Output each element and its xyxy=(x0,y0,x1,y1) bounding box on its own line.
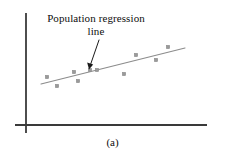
population-regression-line xyxy=(41,48,185,84)
data-point xyxy=(72,70,75,73)
data-point xyxy=(76,79,79,82)
figure-caption: (a) xyxy=(0,136,225,149)
data-point xyxy=(45,75,48,78)
data-point xyxy=(55,84,58,87)
data-point xyxy=(95,68,98,71)
annotation-label-line-1: Population regression xyxy=(30,12,162,25)
annotation-arrow xyxy=(87,40,99,70)
data-point xyxy=(88,68,91,71)
annotation-label: Population regression line xyxy=(30,12,162,37)
data-point-group xyxy=(45,45,169,87)
figure-container: Population regression line (a) xyxy=(0,0,225,159)
data-point xyxy=(166,45,169,48)
data-point xyxy=(134,53,137,56)
data-point xyxy=(122,72,125,75)
arrow-shaft xyxy=(90,40,99,66)
data-point xyxy=(154,58,157,61)
annotation-label-line-2: line xyxy=(30,25,162,38)
